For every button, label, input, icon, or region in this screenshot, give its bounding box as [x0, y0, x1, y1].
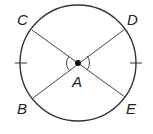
- label-a: A: [71, 73, 82, 90]
- label-d: D: [127, 11, 138, 28]
- label-c: C: [17, 11, 28, 28]
- angle-mark-left: [66, 56, 69, 70]
- circle-diagram: A C D B E: [0, 0, 153, 134]
- center-point: [75, 60, 81, 66]
- label-b: B: [17, 100, 27, 117]
- label-e: E: [126, 100, 137, 117]
- angle-mark-right: [87, 56, 90, 70]
